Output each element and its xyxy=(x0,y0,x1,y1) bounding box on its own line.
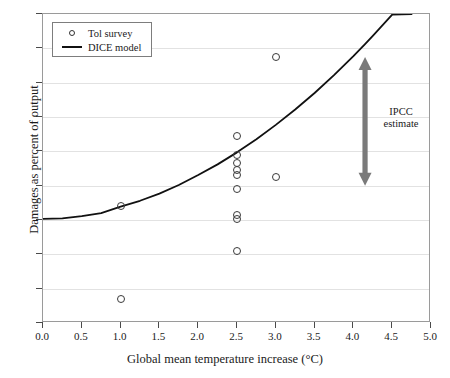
ipcc-estimate-arrow xyxy=(43,14,431,323)
legend-label-tol-survey: Tol survey xyxy=(85,28,132,39)
x-tick-label: 4.5 xyxy=(371,331,411,342)
x-tick-mark xyxy=(314,322,315,328)
y-axis-title: Damages as percent of output xyxy=(27,40,42,280)
ipcc-estimate-label-line1: IPCC xyxy=(374,106,428,118)
damages-vs-temperature-chart: 6543210–1–2–3 0.00.51.01.52.02.53.03.54.… xyxy=(0,0,450,378)
x-tick-label: 3.5 xyxy=(294,331,334,342)
legend: Tol survey DICE model xyxy=(52,22,152,57)
y-tick-mark xyxy=(36,13,42,14)
ipcc-estimate-label-line2: estimate xyxy=(374,118,428,130)
y-tick-mark xyxy=(36,288,42,289)
x-tick-label: 1.5 xyxy=(138,331,178,342)
legend-entry-tol-survey: Tol survey xyxy=(53,26,151,40)
line-marker-icon xyxy=(59,46,85,48)
x-tick-mark xyxy=(430,322,431,328)
x-tick-label: 5.0 xyxy=(410,331,450,342)
x-tick-label: 0.0 xyxy=(22,331,62,342)
x-tick-mark xyxy=(391,322,392,328)
ipcc-estimate-label: IPCC estimate xyxy=(374,106,428,130)
x-tick-mark xyxy=(42,322,43,328)
x-tick-mark xyxy=(158,322,159,328)
x-tick-label: 4.0 xyxy=(332,331,372,342)
legend-entry-dice-model: DICE model xyxy=(53,40,151,54)
x-tick-mark xyxy=(120,322,121,328)
x-tick-label: 3.0 xyxy=(255,331,295,342)
x-tick-mark xyxy=(352,322,353,328)
x-tick-mark xyxy=(197,322,198,328)
x-tick-mark xyxy=(81,322,82,328)
plot-area xyxy=(42,13,430,322)
x-tick-label: 0.5 xyxy=(61,331,101,342)
x-tick-mark xyxy=(236,322,237,328)
x-tick-label: 1.0 xyxy=(100,331,140,342)
x-tick-label: 2.0 xyxy=(177,331,217,342)
x-axis-title: Global mean temperature increase (°C) xyxy=(0,352,450,367)
x-tick-label: 2.5 xyxy=(216,331,256,342)
x-tick-mark xyxy=(275,322,276,328)
legend-label-dice-model: DICE model xyxy=(85,42,141,53)
circle-marker-icon xyxy=(59,30,85,36)
